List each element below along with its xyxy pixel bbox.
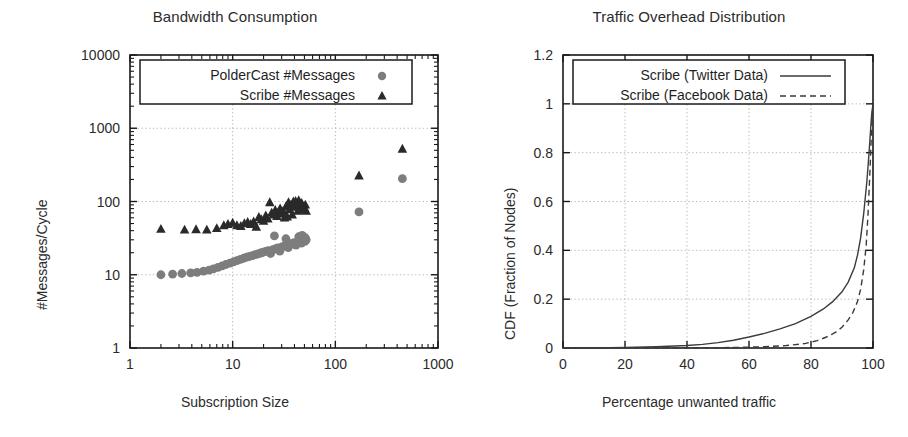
svg-text:10: 10 (225, 356, 241, 372)
svg-text:1: 1 (126, 356, 134, 372)
svg-text:1: 1 (112, 340, 120, 356)
chart-panel-bandwidth: Bandwidth Consumption Subscription Size … (0, 0, 470, 437)
svg-text:100: 100 (324, 356, 348, 372)
legend-left: PolderCast #MessagesScribe #Messages (140, 60, 412, 104)
svg-text:100: 100 (861, 356, 885, 372)
svg-text:10: 10 (104, 267, 120, 283)
series-scribe (156, 144, 407, 234)
svg-text:100: 100 (97, 194, 121, 210)
curve-twitter (563, 104, 873, 348)
legend-label: PolderCast #Messages (210, 67, 355, 83)
svg-text:0.4: 0.4 (534, 242, 554, 258)
svg-text:80: 80 (803, 356, 819, 372)
svg-text:1000: 1000 (89, 120, 120, 136)
series-poldercast (157, 174, 407, 279)
chart-panel-traffic: Traffic Overhead Distribution Percentage… (470, 0, 908, 437)
svg-text:20: 20 (617, 356, 633, 372)
svg-text:0.6: 0.6 (534, 194, 554, 210)
plot-area-right: 02040608010000.20.40.60.811.2Scribe (Twi… (470, 0, 908, 437)
svg-text:60: 60 (741, 356, 757, 372)
legend-label: Scribe (Facebook Data) (620, 87, 768, 103)
svg-text:0.8: 0.8 (534, 145, 554, 161)
legend-right: Scribe (Twitter Data)Scribe (Facebook Da… (573, 60, 845, 104)
svg-text:1: 1 (545, 96, 553, 112)
figure-root: Bandwidth Consumption Subscription Size … (0, 0, 908, 437)
plot-area-left: 1101001000110100100010000PolderCast #Mes… (0, 0, 470, 437)
svg-text:1.2: 1.2 (534, 47, 554, 63)
svg-text:10000: 10000 (81, 47, 120, 63)
curve-facebook (563, 104, 873, 348)
legend-label: Scribe (Twitter Data) (640, 67, 768, 83)
legend-label: Scribe #Messages (240, 87, 355, 103)
svg-text:0: 0 (559, 356, 567, 372)
svg-text:1000: 1000 (422, 356, 453, 372)
svg-text:40: 40 (679, 356, 695, 372)
svg-text:0: 0 (545, 340, 553, 356)
svg-text:0.2: 0.2 (534, 291, 554, 307)
